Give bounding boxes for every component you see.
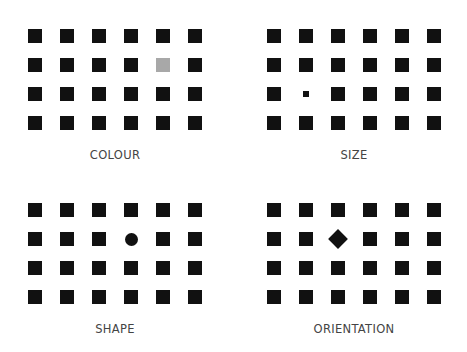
square-marker bbox=[363, 290, 377, 304]
square-marker bbox=[156, 290, 170, 304]
square-marker bbox=[60, 261, 74, 275]
square-marker bbox=[92, 290, 106, 304]
square-marker bbox=[363, 58, 377, 72]
square-marker bbox=[299, 290, 313, 304]
square-marker bbox=[427, 87, 441, 101]
square-marker bbox=[267, 29, 281, 43]
square-marker bbox=[92, 58, 106, 72]
square-marker bbox=[124, 29, 138, 43]
square-marker bbox=[28, 203, 42, 217]
odd-diamond-marker bbox=[328, 229, 348, 249]
square-marker bbox=[299, 203, 313, 217]
square-marker bbox=[188, 58, 202, 72]
panel-label-orientation: ORIENTATION bbox=[238, 322, 467, 336]
square-marker bbox=[267, 203, 281, 217]
square-marker bbox=[395, 290, 409, 304]
square-marker bbox=[28, 116, 42, 130]
square-marker bbox=[363, 203, 377, 217]
square-marker bbox=[427, 232, 441, 246]
square-marker bbox=[363, 261, 377, 275]
square-marker bbox=[188, 232, 202, 246]
square-marker bbox=[331, 203, 345, 217]
square-marker bbox=[267, 232, 281, 246]
square-marker bbox=[427, 116, 441, 130]
square-marker bbox=[92, 87, 106, 101]
square-marker bbox=[28, 261, 42, 275]
square-marker bbox=[60, 203, 74, 217]
square-marker bbox=[28, 232, 42, 246]
odd-colour-square-marker bbox=[156, 58, 170, 72]
square-marker bbox=[395, 58, 409, 72]
square-marker bbox=[156, 87, 170, 101]
square-marker bbox=[427, 29, 441, 43]
square-marker bbox=[331, 29, 345, 43]
square-marker bbox=[299, 232, 313, 246]
square-marker bbox=[363, 87, 377, 101]
square-marker bbox=[299, 58, 313, 72]
square-marker bbox=[60, 87, 74, 101]
square-marker bbox=[267, 58, 281, 72]
panel-label-shape: SHAPE bbox=[0, 322, 232, 336]
square-marker bbox=[331, 87, 345, 101]
square-marker bbox=[331, 116, 345, 130]
square-marker bbox=[331, 290, 345, 304]
panel-label-colour: COLOUR bbox=[0, 148, 232, 162]
square-marker bbox=[427, 58, 441, 72]
square-marker bbox=[188, 29, 202, 43]
square-marker bbox=[124, 290, 138, 304]
panel-label-size: SIZE bbox=[238, 148, 467, 162]
square-marker bbox=[331, 261, 345, 275]
square-marker bbox=[92, 203, 106, 217]
square-marker bbox=[60, 58, 74, 72]
square-marker bbox=[395, 232, 409, 246]
square-marker bbox=[395, 203, 409, 217]
odd-small-square-marker bbox=[303, 91, 309, 97]
square-marker bbox=[395, 116, 409, 130]
square-marker bbox=[156, 261, 170, 275]
square-marker bbox=[267, 87, 281, 101]
square-marker bbox=[188, 203, 202, 217]
square-marker bbox=[299, 261, 313, 275]
square-marker bbox=[156, 116, 170, 130]
square-marker bbox=[124, 58, 138, 72]
square-marker bbox=[267, 116, 281, 130]
square-marker bbox=[28, 29, 42, 43]
square-marker bbox=[124, 261, 138, 275]
square-marker bbox=[92, 116, 106, 130]
square-marker bbox=[124, 87, 138, 101]
square-marker bbox=[363, 116, 377, 130]
square-marker bbox=[395, 29, 409, 43]
square-marker bbox=[92, 232, 106, 246]
square-marker bbox=[60, 232, 74, 246]
square-marker bbox=[267, 261, 281, 275]
square-marker bbox=[299, 29, 313, 43]
square-marker bbox=[427, 290, 441, 304]
square-marker bbox=[267, 290, 281, 304]
square-marker bbox=[188, 261, 202, 275]
square-marker bbox=[395, 87, 409, 101]
square-marker bbox=[92, 29, 106, 43]
square-marker bbox=[331, 58, 345, 72]
square-marker bbox=[188, 87, 202, 101]
square-marker bbox=[60, 116, 74, 130]
square-marker bbox=[299, 116, 313, 130]
square-marker bbox=[156, 203, 170, 217]
square-marker bbox=[188, 290, 202, 304]
square-marker bbox=[156, 29, 170, 43]
square-marker bbox=[156, 232, 170, 246]
square-marker bbox=[124, 116, 138, 130]
square-marker bbox=[28, 58, 42, 72]
square-marker bbox=[395, 261, 409, 275]
square-marker bbox=[427, 203, 441, 217]
square-marker bbox=[363, 29, 377, 43]
odd-circle-marker bbox=[125, 233, 138, 246]
square-marker bbox=[28, 87, 42, 101]
square-marker bbox=[188, 116, 202, 130]
square-marker bbox=[92, 261, 106, 275]
square-marker bbox=[363, 232, 377, 246]
square-marker bbox=[60, 29, 74, 43]
square-marker bbox=[427, 261, 441, 275]
square-marker bbox=[60, 290, 74, 304]
square-marker bbox=[124, 203, 138, 217]
square-marker bbox=[28, 290, 42, 304]
